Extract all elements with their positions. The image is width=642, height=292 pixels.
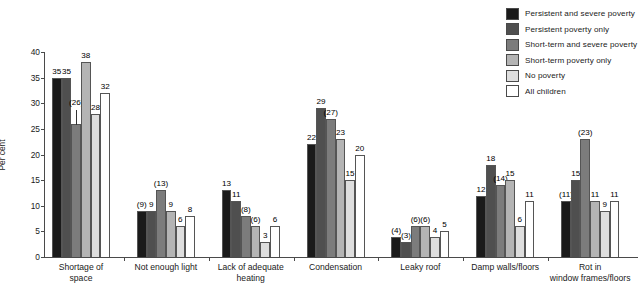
bar[interactable]: 29 [316, 108, 326, 257]
bar[interactable]: 13 [222, 190, 232, 257]
bar[interactable]: 4 [430, 237, 440, 258]
x-axis-category-line: heating [208, 273, 293, 284]
bar-value-label: 15 [346, 169, 355, 178]
bar[interactable]: 23 [336, 139, 346, 257]
legend-item-label: Persistent poverty only [525, 25, 609, 34]
bar[interactable]: 15 [571, 180, 581, 257]
y-axis-title: Per cent [0, 139, 7, 170]
y-axis-tick-mark [41, 257, 45, 258]
bar[interactable]: 5 [440, 231, 450, 257]
bar[interactable]: 11 [231, 201, 241, 257]
x-axis-category-line: Shortage of [39, 262, 124, 273]
bar-value-label: (23) [578, 128, 592, 137]
bar[interactable]: (27) [326, 119, 336, 257]
x-axis-group-tick [294, 257, 295, 261]
bar[interactable]: 6 [515, 226, 525, 257]
legend-item[interactable]: Persistent poverty only [506, 22, 642, 38]
x-axis-category-label: Condensation [293, 262, 378, 273]
x-axis-category-label: Rot inwindow frames/floors [548, 262, 633, 284]
bar-value-label: 3 [263, 231, 268, 240]
bar-value-label: 35 [52, 67, 61, 76]
bar[interactable]: (6) [411, 226, 421, 257]
bar-value-label: 22 [307, 133, 316, 142]
bar-group: (4)(3)(6)(6)45 [391, 52, 449, 257]
legend-item[interactable]: Short-term and severe poverty [506, 37, 642, 53]
y-axis-tick-mark [41, 180, 45, 181]
bar[interactable]: 15 [345, 180, 355, 257]
bar[interactable]: (23) [580, 139, 590, 257]
plot-area: 0510152025303540 3535(26)382832(9)9(13)9… [44, 52, 638, 257]
bar[interactable]: 9 [600, 211, 610, 257]
y-axis-tick-label: 0 [18, 252, 40, 262]
bar[interactable]: 6 [270, 226, 280, 257]
bar[interactable]: 3 [260, 242, 270, 257]
x-axis-group-tick [548, 257, 549, 261]
bar-value-label: 5 [442, 220, 447, 229]
bar-value-label: (3) [401, 231, 411, 240]
bar-value-label: 6 [518, 215, 523, 224]
bar[interactable]: 15 [505, 180, 515, 257]
bar-value-label: 4 [433, 226, 438, 235]
bar[interactable]: 32 [100, 93, 110, 257]
bar-value-label: 6 [178, 215, 183, 224]
bar[interactable]: (14) [496, 185, 506, 257]
bar-value-label: (4) [391, 226, 401, 235]
bar-value-label: 11 [525, 190, 533, 199]
bar[interactable]: 35 [52, 78, 62, 257]
bar-group-bars: (11)15(23)11911 [561, 52, 619, 257]
x-axis-category-label: Damp walls/floors [463, 262, 548, 273]
legend-swatch-icon [506, 39, 519, 51]
bar-value-label: 38 [81, 51, 90, 60]
x-axis-category-label: Lack of adequateheating [208, 262, 293, 284]
x-axis-category-line: Not enough light [123, 262, 208, 273]
y-axis-tick-label: 40 [18, 47, 40, 57]
y-axis-tick-label: 15 [18, 175, 40, 185]
bar[interactable]: (3) [401, 242, 411, 257]
bar[interactable]: (11) [561, 201, 571, 257]
bar-value-label: (27) [324, 108, 338, 117]
bar[interactable]: 9 [166, 211, 176, 257]
bar[interactable]: 22 [307, 144, 317, 257]
bar[interactable]: 38 [81, 62, 91, 257]
bar[interactable]: 12 [476, 196, 486, 258]
y-axis-tick-mark [41, 129, 45, 130]
bar-value-label: (6) [411, 215, 421, 224]
bar-group: 2229(27)231520 [307, 52, 365, 257]
bar[interactable]: (8) [241, 216, 251, 257]
y-axis-tick-label: 20 [18, 150, 40, 160]
x-axis-category-line: Lack of adequate [208, 262, 293, 273]
bar-value-label: (13) [154, 179, 168, 188]
x-axis-category-label: Shortage ofspace [39, 262, 124, 284]
bar[interactable]: (6) [251, 226, 261, 257]
bar-value-label: 9 [602, 200, 607, 209]
bar[interactable]: 28 [91, 114, 101, 258]
bar[interactable]: 11 [590, 201, 600, 257]
x-axis-category-line: window frames/floors [548, 273, 633, 284]
bar-value-label: 11 [591, 190, 599, 199]
bar-group-bars: (4)(3)(6)(6)45 [391, 52, 449, 257]
bar[interactable]: (26) [71, 124, 81, 257]
y-axis-tick-mark [41, 103, 45, 104]
bar[interactable]: 9 [147, 211, 157, 257]
bar[interactable]: (4) [391, 237, 401, 258]
bar-value-label: 9 [149, 200, 154, 209]
bar[interactable]: (13) [156, 190, 166, 257]
bar-group: (9)9(13)968 [137, 52, 195, 257]
bar-group: 1218(14)15611 [476, 52, 534, 257]
y-axis-tick-mark [41, 231, 45, 232]
bar[interactable]: 20 [355, 155, 365, 258]
bar[interactable]: 6 [176, 226, 186, 257]
bar[interactable]: 11 [610, 201, 620, 257]
bar-value-label: 35 [62, 67, 71, 76]
legend-item[interactable]: Persistent and severe poverty [506, 6, 642, 22]
bar-group: 1311(8)(6)36 [222, 52, 280, 257]
y-axis-tick-label: 25 [18, 124, 40, 134]
bar[interactable]: (9) [137, 211, 147, 257]
x-axis-category-line: space [39, 273, 124, 284]
bar[interactable]: (6) [420, 226, 430, 257]
bar[interactable]: 8 [185, 216, 195, 257]
y-axis-tick-mark [41, 206, 45, 207]
bar-value-label: 8 [188, 205, 193, 214]
bar-chart: Persistent and severe povertyPersistent … [0, 0, 642, 292]
bar[interactable]: 11 [525, 201, 535, 257]
